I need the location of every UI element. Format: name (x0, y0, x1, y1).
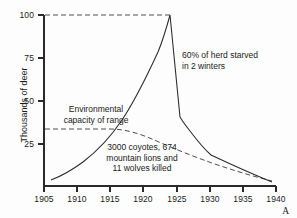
deer-population-chart: 100 75 50 25 1905 1910 1915 1920 1925 19… (0, 0, 297, 218)
x-tick-label-1910: 1910 (67, 194, 86, 204)
annotation-herd-starved: 60% of herd starved in 2 winters (182, 50, 258, 71)
x-tick-label-1925: 1925 (167, 194, 186, 204)
annotation-predators-killed: 3000 coyotes, 674 mountain lions and 11 … (80, 142, 204, 174)
y-axis-title: Thousands of deer (19, 45, 29, 165)
x-tick-label-1905: 1905 (34, 194, 53, 204)
annotation-predators-killed-line-1: 3000 coyotes, 674 (80, 142, 204, 153)
x-tick-label-1935: 1935 (233, 194, 252, 204)
annotation-herd-starved-line-1: 60% of herd starved (182, 50, 258, 61)
chart-canvas (0, 0, 297, 218)
panel-label: A (282, 206, 289, 216)
annotation-predators-killed-line-2: mountain lions and (80, 153, 204, 164)
y-tick-label-100: 100 (10, 10, 34, 20)
x-tick-label-1920: 1920 (133, 194, 152, 204)
annotation-environmental-capacity: Environmental capacity of range (48, 104, 144, 125)
annotation-environmental-capacity-line-2: capacity of range (48, 115, 144, 126)
annotation-herd-starved-line-2: in 2 winters (182, 61, 258, 72)
x-tick-marks (44, 186, 276, 192)
annotation-predators-killed-line-3: 11 wolves killed (80, 163, 204, 174)
x-tick-label-1915: 1915 (100, 194, 119, 204)
x-tick-label-1930: 1930 (200, 194, 219, 204)
x-tick-label-1940: 1940 (266, 194, 285, 204)
y-tick-marks (38, 15, 44, 144)
annotation-environmental-capacity-line-1: Environmental (48, 104, 144, 115)
